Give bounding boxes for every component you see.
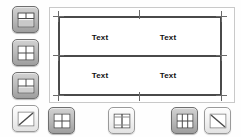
- handle-bottom-center[interactable]: [135, 92, 144, 101]
- table-cell[interactable]: Text: [140, 26, 196, 48]
- bottom-toolbar-button-grid-merge[interactable]: [48, 107, 75, 134]
- handle-middle-left[interactable]: [53, 50, 64, 61]
- left-toolbar-button-table-grid-rows[interactable]: [12, 72, 39, 99]
- table-grid-icon: [17, 12, 34, 27]
- selected-table[interactable]: Text Text Text Text: [58, 16, 222, 96]
- table-cell[interactable]: Text: [140, 64, 196, 86]
- table-grid-rows-icon: [17, 78, 34, 93]
- table-grid-2x2-icon: [53, 113, 70, 128]
- table-grid-2x2-icon: [17, 45, 34, 60]
- handle-middle-right[interactable]: [216, 50, 227, 61]
- handle-bottom-left[interactable]: [53, 90, 64, 101]
- table-grid-columns-icon: [176, 113, 193, 128]
- left-toolbar-button-diagonal-line[interactable]: [12, 105, 39, 132]
- bottom-toolbar-button-grid-columns[interactable]: [171, 107, 198, 134]
- left-toolbar-button-table-grid-2x2[interactable]: [12, 39, 39, 66]
- handle-top-right[interactable]: [216, 11, 227, 22]
- table-cell[interactable]: Text: [72, 26, 128, 48]
- left-toolbar-button-table-grid-split-top[interactable]: [12, 6, 39, 33]
- bottom-toolbar-button-split-vertical[interactable]: [108, 107, 135, 134]
- handle-top-center[interactable]: [135, 10, 144, 19]
- table-split-vertical-icon: [113, 113, 130, 128]
- table-row-divider[interactable]: [58, 55, 222, 57]
- table-cell[interactable]: Text: [72, 64, 128, 86]
- diagonal-line-icon: [209, 113, 226, 128]
- bottom-toolbar-button-diagonal-clear[interactable]: [204, 107, 231, 134]
- table-layout-editor: Text Text Text Text: [0, 0, 241, 137]
- table-canvas[interactable]: Text Text Text Text: [49, 7, 235, 103]
- diagonal-line-icon: [17, 111, 34, 126]
- handle-bottom-right[interactable]: [216, 90, 227, 101]
- handle-top-left[interactable]: [53, 11, 64, 22]
